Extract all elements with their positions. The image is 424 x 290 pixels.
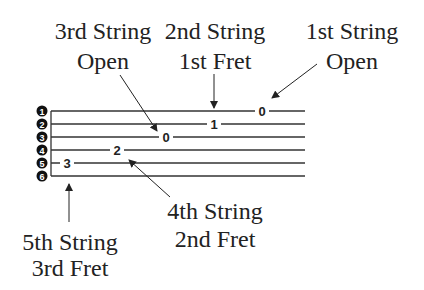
tab-staff: 1 2 3 4 5 6 3 2 0 1 0 <box>0 0 424 290</box>
svg-text:5: 5 <box>39 159 44 169</box>
svg-text:3: 3 <box>63 156 70 171</box>
svg-text:4: 4 <box>39 146 44 156</box>
svg-text:2: 2 <box>113 143 120 158</box>
svg-text:1: 1 <box>210 117 217 132</box>
svg-text:0: 0 <box>258 104 265 119</box>
staff-lines <box>51 111 305 176</box>
svg-text:2: 2 <box>39 120 44 130</box>
svg-text:0: 0 <box>162 130 169 145</box>
svg-text:6: 6 <box>39 172 44 182</box>
svg-text:3: 3 <box>39 133 44 143</box>
svg-text:1: 1 <box>39 107 44 117</box>
pointer-arrows <box>69 64 317 222</box>
string-number-badges: 1 2 3 4 5 6 <box>37 106 48 182</box>
